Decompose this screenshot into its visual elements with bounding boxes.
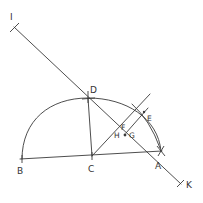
label-C: C xyxy=(88,164,94,174)
point-E xyxy=(143,111,145,113)
diameter-BA xyxy=(20,151,162,159)
label-A: A xyxy=(155,161,162,171)
label-F: F xyxy=(121,123,125,132)
label-G: G xyxy=(129,131,135,140)
label-B: B xyxy=(17,166,23,176)
point-G xyxy=(124,134,127,137)
label-D: D xyxy=(90,85,97,95)
label-K: K xyxy=(186,180,193,190)
label-I: I xyxy=(10,12,13,22)
label-E: E xyxy=(147,114,152,123)
label-H: H xyxy=(114,131,120,140)
segment-CD xyxy=(88,98,92,156)
geometry-diagram: I D E F G H B C A K xyxy=(0,0,203,203)
